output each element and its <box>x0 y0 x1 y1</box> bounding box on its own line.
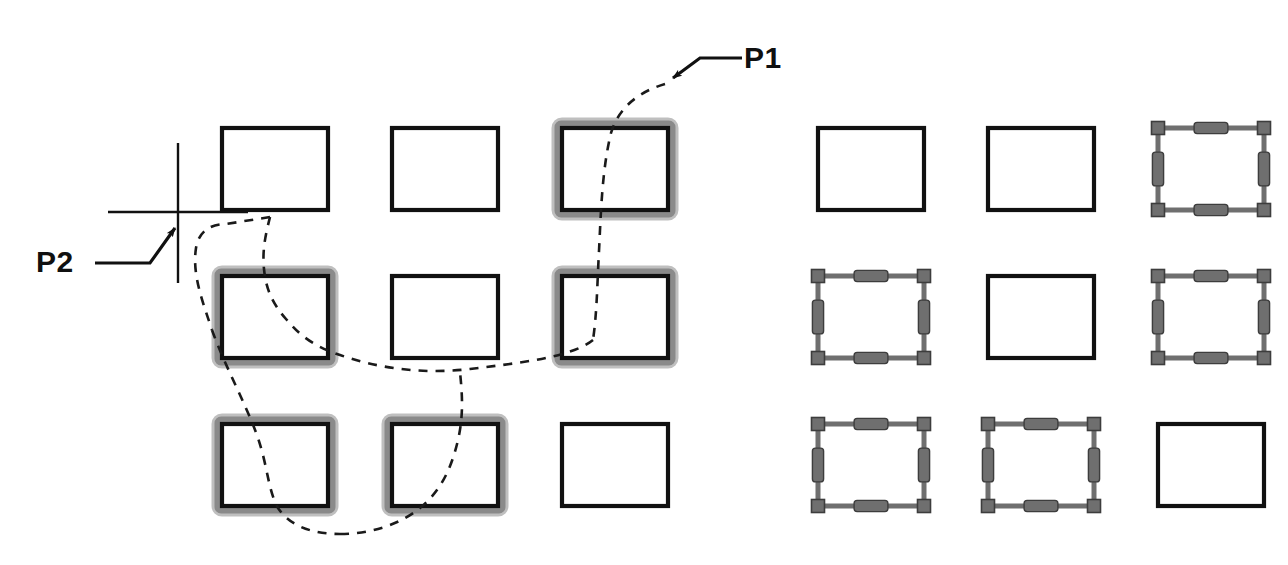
rectangle-outline <box>988 128 1094 210</box>
grip-mid-bottom-grip[interactable] <box>1194 204 1228 215</box>
grip-corner-tr-grip[interactable] <box>918 418 931 431</box>
grip-corner-tl-grip[interactable] <box>812 418 825 431</box>
grip-mid-left-grip[interactable] <box>1152 152 1163 186</box>
grip-corner-tl-grip[interactable] <box>982 418 995 431</box>
grip-corner-bl-grip[interactable] <box>982 500 995 513</box>
grip-mid-left-grip[interactable] <box>982 448 993 482</box>
figure-canvas: P1 P2 <box>0 0 1288 565</box>
p1-label: P1 <box>744 41 782 74</box>
rectangle-outline <box>392 424 498 506</box>
rectangle-outline <box>562 276 668 358</box>
cad-selection-figure: P1 P2 <box>0 0 1288 565</box>
object-rectangle[interactable] <box>392 128 498 210</box>
object-rectangle[interactable] <box>222 128 328 210</box>
grip-corner-bl-grip[interactable] <box>812 352 825 365</box>
grip-mid-left-grip[interactable] <box>812 448 823 482</box>
object-rectangle[interactable] <box>988 128 1094 210</box>
object-rectangle[interactable] <box>1152 122 1271 217</box>
object-rectangle[interactable] <box>818 128 924 210</box>
grip-mid-right-grip[interactable] <box>1088 448 1099 482</box>
object-rectangle[interactable] <box>216 418 334 512</box>
grip-corner-br-grip[interactable] <box>1258 352 1271 365</box>
grip-corner-br-grip[interactable] <box>1088 500 1101 513</box>
rectangle-outline <box>222 276 328 358</box>
grip-mid-left-grip[interactable] <box>812 300 823 334</box>
grip-mid-bottom-grip[interactable] <box>854 500 888 511</box>
object-rectangle[interactable] <box>812 418 931 513</box>
grip-mid-right-grip[interactable] <box>918 448 929 482</box>
right-object-group <box>812 122 1271 513</box>
rectangle-outline <box>1158 276 1264 358</box>
grip-mid-right-grip[interactable] <box>1258 300 1269 334</box>
rectangle-outline <box>222 424 328 506</box>
rectangle-outline <box>562 424 668 506</box>
grip-corner-tr-grip[interactable] <box>918 270 931 283</box>
object-rectangle[interactable] <box>392 276 498 358</box>
grip-corner-tr-grip[interactable] <box>1258 122 1271 135</box>
grip-mid-left-grip[interactable] <box>1152 300 1163 334</box>
grip-mid-bottom-grip[interactable] <box>1194 352 1228 363</box>
object-rectangle[interactable] <box>386 418 504 512</box>
grip-mid-top-grip[interactable] <box>1194 122 1228 133</box>
rectangle-outline <box>818 128 924 210</box>
grip-mid-bottom-grip[interactable] <box>1024 500 1058 511</box>
grip-mid-top-grip[interactable] <box>854 418 888 429</box>
object-rectangle[interactable] <box>556 122 674 216</box>
rectangle-outline <box>988 276 1094 358</box>
object-rectangle[interactable] <box>1158 424 1264 506</box>
grip-corner-tr-grip[interactable] <box>1258 270 1271 283</box>
grip-mid-top-grip[interactable] <box>1194 270 1228 281</box>
grip-corner-br-grip[interactable] <box>1258 204 1271 217</box>
grip-corner-tr-grip[interactable] <box>1088 418 1101 431</box>
object-rectangle[interactable] <box>216 270 334 364</box>
rectangle-outline <box>1158 424 1264 506</box>
object-rectangle[interactable] <box>1152 270 1271 365</box>
grip-corner-br-grip[interactable] <box>918 352 931 365</box>
rectangle-outline <box>562 128 668 210</box>
p2-label: P2 <box>36 245 74 278</box>
grip-corner-br-grip[interactable] <box>918 500 931 513</box>
object-rectangle[interactable] <box>982 418 1101 513</box>
grip-mid-right-grip[interactable] <box>918 300 929 334</box>
grip-corner-tl-grip[interactable] <box>1152 122 1165 135</box>
grip-corner-bl-grip[interactable] <box>1152 352 1165 365</box>
rectangle-outline <box>818 424 924 506</box>
rectangle-outline <box>818 276 924 358</box>
object-rectangle[interactable] <box>988 276 1094 358</box>
object-rectangle[interactable] <box>812 270 931 365</box>
grip-mid-top-grip[interactable] <box>854 270 888 281</box>
object-rectangle[interactable] <box>562 424 668 506</box>
grip-mid-bottom-grip[interactable] <box>854 352 888 363</box>
rectangle-outline <box>988 424 1094 506</box>
grip-corner-bl-grip[interactable] <box>812 500 825 513</box>
rectangle-outline <box>1158 128 1264 210</box>
rectangle-outline <box>222 128 328 210</box>
grip-corner-bl-grip[interactable] <box>1152 204 1165 217</box>
grip-mid-top-grip[interactable] <box>1024 418 1058 429</box>
grip-corner-tl-grip[interactable] <box>812 270 825 283</box>
rectangle-outline <box>392 276 498 358</box>
grip-mid-right-grip[interactable] <box>1258 152 1269 186</box>
rectangle-outline <box>392 128 498 210</box>
grip-corner-tl-grip[interactable] <box>1152 270 1165 283</box>
